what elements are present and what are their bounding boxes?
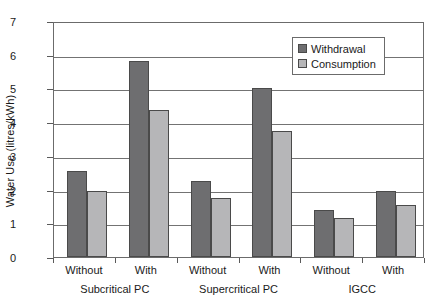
chart-legend: Withdrawal Consumption	[292, 37, 385, 75]
legend-swatch-icon-consumption	[298, 59, 307, 68]
x-tick-mark	[362, 258, 363, 263]
x-tick-mark	[115, 258, 116, 263]
x-category-label: With	[258, 264, 280, 276]
x-group-label: IGCC	[348, 283, 376, 295]
legend-item-withdrawal: Withdrawal	[298, 41, 376, 56]
x-tick-mark	[424, 258, 425, 263]
x-category-label: Without	[313, 264, 350, 276]
x-category-label: With	[382, 264, 404, 276]
gridline	[54, 124, 423, 125]
bar-withdrawal-3	[252, 88, 272, 257]
x-category-label: With	[135, 264, 157, 276]
legend-item-consumption: Consumption	[298, 56, 376, 71]
y-tick-label: 0	[0, 252, 16, 264]
bar-withdrawal-2	[191, 181, 211, 257]
gridline	[54, 192, 423, 193]
x-tick-mark	[239, 258, 240, 263]
bar-withdrawal-1	[129, 61, 149, 257]
water-use-bar-chart: Water Use (litres/kWh) 01234567 WithoutW…	[0, 0, 446, 302]
x-category-label: Without	[65, 264, 102, 276]
x-tick-mark	[53, 258, 54, 263]
gridline	[54, 158, 423, 159]
bar-withdrawal-5	[376, 191, 396, 257]
x-tick-mark	[300, 258, 301, 263]
gridline	[54, 225, 423, 226]
bar-consumption-4	[334, 218, 354, 257]
x-category-label: Without	[189, 264, 226, 276]
y-tick-label: 2	[0, 185, 16, 197]
bar-consumption-0	[87, 191, 107, 257]
legend-label-consumption: Consumption	[311, 58, 376, 70]
bar-consumption-5	[396, 205, 416, 257]
y-tick-label: 4	[0, 117, 16, 129]
y-tick-label: 1	[0, 218, 16, 230]
y-tick-label: 5	[0, 83, 16, 95]
bar-consumption-1	[149, 110, 169, 257]
gridline	[54, 90, 423, 91]
x-group-label: Subcritical PC	[80, 283, 149, 295]
bar-withdrawal-0	[67, 171, 87, 257]
bar-withdrawal-4	[314, 210, 334, 257]
y-tick-label: 3	[0, 151, 16, 163]
y-tick-label: 6	[0, 50, 16, 62]
x-tick-mark	[177, 258, 178, 263]
legend-swatch-icon-withdrawal	[298, 44, 307, 53]
bar-consumption-2	[211, 198, 231, 257]
bar-consumption-3	[272, 131, 292, 257]
legend-label-withdrawal: Withdrawal	[311, 43, 365, 55]
x-group-label: Supercritical PC	[199, 283, 278, 295]
y-tick-label: 7	[0, 16, 16, 28]
